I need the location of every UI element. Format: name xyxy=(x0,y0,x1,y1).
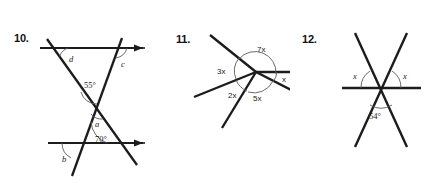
arc-angle-3x xyxy=(234,58,239,79)
label-angle-c: c xyxy=(121,59,125,69)
problem-10-figure: d c 55° a 70° b xyxy=(0,0,160,183)
worksheet-page: 10. xyxy=(0,0,432,183)
arc-angle-x-left xyxy=(361,71,370,88)
label-angle-2x: 2x xyxy=(228,91,236,100)
label-angle-b: b xyxy=(62,154,66,164)
label-angle-5x: 5x xyxy=(253,94,261,103)
problem-12-figure: x x 54° xyxy=(290,0,432,183)
label-angle-x-right: x xyxy=(402,71,407,81)
arc-angle-5x xyxy=(248,81,273,93)
arc-angle-d xyxy=(60,48,69,57)
label-angle-70: 70° xyxy=(95,134,107,144)
ray-lower-left xyxy=(222,72,256,128)
label-angle-3x: 3x xyxy=(217,67,225,76)
label-angle-a: a xyxy=(95,119,99,129)
arc-angle-x-right xyxy=(392,71,401,88)
label-angle-55: 55° xyxy=(84,80,96,90)
problem-11-figure: 7x 3x 2x 5x x xyxy=(160,0,290,183)
label-angle-x: x xyxy=(282,75,286,84)
label-angle-54: 54° xyxy=(369,111,381,121)
transversal-down-right xyxy=(47,39,137,165)
transversal-up-right xyxy=(72,38,122,176)
problem-10: 10. xyxy=(0,0,160,183)
problem-12: 12. x x 54° xyxy=(290,0,432,183)
label-angle-d: d xyxy=(69,54,74,64)
label-angle-x-left: x xyxy=(352,71,357,81)
label-angle-7x: 7x xyxy=(257,45,265,54)
problem-11: 11. 7x 3x 2x 5x x xyxy=(160,0,290,183)
